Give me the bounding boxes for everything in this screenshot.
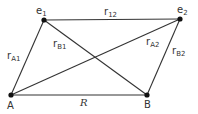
label-rB1: rB1	[53, 38, 66, 51]
node-e1	[41, 17, 46, 22]
label-A: A	[7, 100, 14, 111]
edge-A-e2	[11, 19, 180, 95]
node-A	[8, 92, 13, 97]
edge-e1-e2	[44, 19, 180, 20]
edge-B-e2	[147, 19, 180, 95]
label-r12: r12	[104, 6, 117, 19]
label-rB2: rB2	[172, 45, 185, 58]
label-R: R	[79, 97, 88, 108]
label-B: B	[144, 99, 151, 110]
node-B	[144, 92, 149, 97]
distance-diagram: e1 e2 A B r12 rA1 rB1 rA2 rB2 R	[0, 0, 198, 114]
label-e1: e1	[36, 5, 47, 18]
label-rA1: rA1	[7, 50, 20, 63]
label-e2: e2	[177, 4, 188, 17]
label-rA2: rA2	[146, 36, 159, 49]
node-e2	[177, 16, 182, 21]
